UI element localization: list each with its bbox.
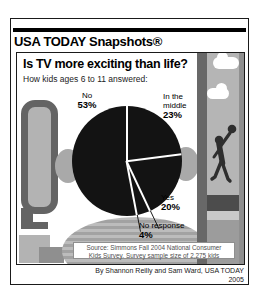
armchair-shape bbox=[21, 100, 58, 214]
window-panel bbox=[197, 53, 244, 264]
callout-no-pct: 53% bbox=[69, 100, 105, 109]
year: 2005 bbox=[228, 276, 244, 283]
callout-in-the-middle: In the middle 23% bbox=[163, 92, 187, 119]
cloud-icon bbox=[213, 57, 239, 69]
callout-middle-line1: In the bbox=[163, 92, 187, 101]
armchair-foot-bar bbox=[21, 222, 48, 229]
callout-yes: Yes 20% bbox=[161, 193, 180, 211]
source-line2: Kids Survey. Survey sample size of 2,275… bbox=[74, 252, 234, 260]
window-frame-left bbox=[197, 53, 207, 264]
infographic-panel: Is TV more exciting than life? How kids … bbox=[16, 52, 245, 265]
callout-no: No 53% bbox=[69, 91, 105, 109]
source-note: Source: Simmons Fall 2004 National Consu… bbox=[73, 242, 235, 259]
snapshot-card: USA TODAY Snapshots® bbox=[10, 18, 249, 285]
window-ground bbox=[207, 195, 239, 211]
callout-yes-pct: 20% bbox=[161, 202, 180, 211]
callout-no-response-pct: 4% bbox=[139, 230, 184, 239]
pedestal-block-dark bbox=[39, 247, 64, 263]
byline: By Shannon Reilly and Sam Ward, USA TODA… bbox=[95, 267, 244, 274]
callout-no-response: No response 4% bbox=[139, 221, 184, 239]
chart-subtitle: How kids ages 6 to 11 answered: bbox=[23, 74, 148, 84]
chart-title: Is TV more exciting than life? bbox=[23, 57, 188, 71]
masthead-rule bbox=[13, 28, 246, 32]
masthead-brand: USA TODAY Snapshots® bbox=[14, 34, 162, 49]
source-line1: Source: Simmons Fall 2004 National Consu… bbox=[74, 244, 234, 252]
window-sill-band bbox=[207, 211, 239, 220]
window-frame-right bbox=[239, 53, 244, 264]
child-playing-ball-icon bbox=[207, 123, 239, 197]
cloud-icon bbox=[207, 88, 229, 99]
callout-middle-pct: 23% bbox=[163, 110, 187, 119]
